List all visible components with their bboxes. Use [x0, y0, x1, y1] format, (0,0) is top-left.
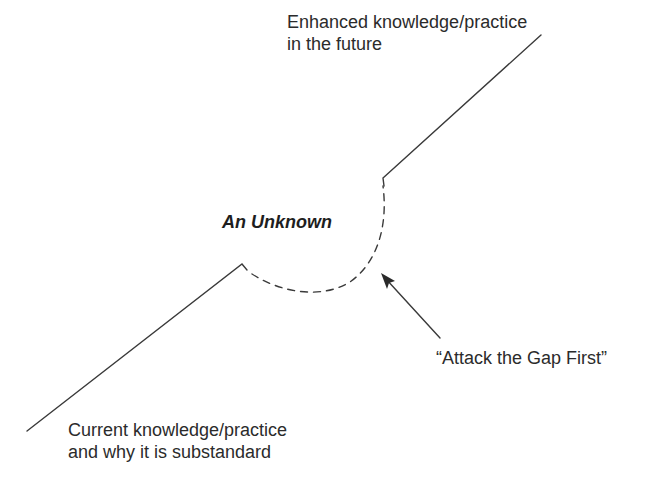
future-label-line1: Enhanced knowledge/practice: [287, 11, 527, 33]
future-knowledge-line: [383, 35, 541, 186]
unknown-label: An Unknown: [222, 211, 332, 233]
gap-arrow-shaft: [386, 279, 440, 338]
current-knowledge-line: [27, 264, 247, 431]
current-knowledge-label: Current knowledge/practice and why it is…: [68, 419, 287, 463]
current-label-line1: Current knowledge/practice: [68, 419, 287, 441]
future-label-line2: in the future: [287, 33, 527, 55]
gap-diagram: [0, 0, 656, 484]
gap-arc: [252, 186, 384, 292]
future-knowledge-label: Enhanced knowledge/practice in the futur…: [287, 11, 527, 55]
current-label-line2: and why it is substandard: [68, 441, 287, 463]
attack-gap-label: “Attack the Gap First”: [436, 347, 607, 369]
